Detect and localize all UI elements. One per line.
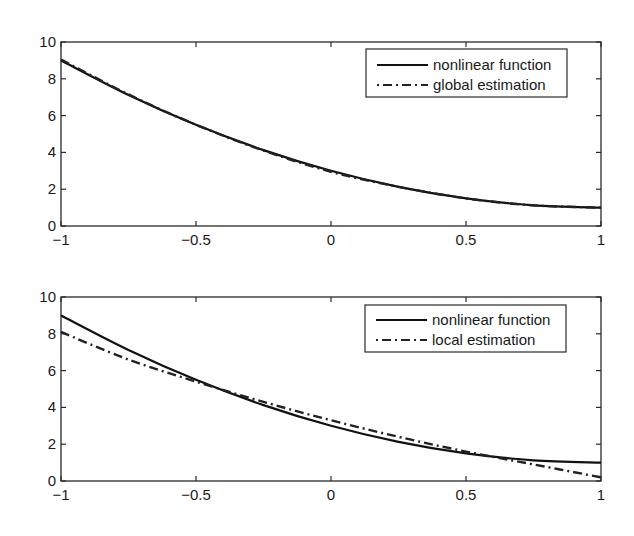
y-tick-label: 4 <box>48 143 56 160</box>
legend: nonlinear function global estimation <box>366 49 567 97</box>
y-tick-label: 2 <box>48 435 56 452</box>
y-tick-label: 8 <box>48 70 56 87</box>
x-tick-label: 1 <box>597 486 605 503</box>
x-tick-label: 1 <box>597 231 605 248</box>
y-tick-label: 2 <box>48 180 56 197</box>
legend-label-nonlinear-function: nonlinear function <box>432 311 550 328</box>
x-tick-label: −0.5 <box>181 231 211 248</box>
x-tick-label: 0 <box>327 486 335 503</box>
x-tick-label: 0.5 <box>456 486 477 503</box>
y-tick-label: 10 <box>39 288 56 305</box>
y-tick-label: 0 <box>48 472 56 489</box>
local-estimation-line <box>61 332 601 477</box>
y-tick-label: 6 <box>48 107 56 124</box>
plot-local-estimation: −1−0.500.510246810 nonlinear function lo… <box>39 288 605 503</box>
x-tick-label: 0.5 <box>456 231 477 248</box>
legend-label-global-estimation: global estimation <box>433 76 546 93</box>
x-tick-label: −0.5 <box>181 486 211 503</box>
y-tick-label: 8 <box>48 325 56 342</box>
legend: nonlinear function local estimation <box>365 305 566 352</box>
legend-label-local-estimation: local estimation <box>432 331 535 348</box>
y-tick-label: 4 <box>48 398 56 415</box>
y-tick-label: 0 <box>48 217 56 234</box>
figure: −1−0.500.510246810 nonlinear function gl… <box>0 0 634 536</box>
y-tick-label: 6 <box>48 362 56 379</box>
y-tick-label: 10 <box>39 33 56 50</box>
x-tick-label: 0 <box>327 231 335 248</box>
legend-label-nonlinear-function: nonlinear function <box>433 56 551 73</box>
plot-global-estimation: −1−0.500.510246810 nonlinear function gl… <box>39 33 605 248</box>
